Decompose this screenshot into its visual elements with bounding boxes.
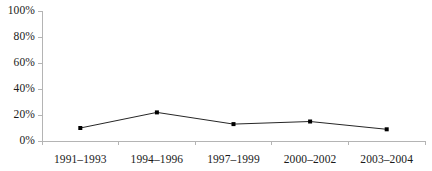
data-point-marker — [385, 127, 389, 131]
series-markers — [78, 110, 388, 131]
y-axis-tick-label: 80% — [14, 31, 35, 43]
data-point-marker — [232, 122, 236, 126]
x-axis-ticks — [42, 141, 425, 145]
series-line — [80, 112, 386, 129]
data-point-marker — [155, 110, 159, 114]
x-axis — [42, 141, 425, 145]
x-axis-tick-label: 2003–2004 — [348, 154, 425, 166]
chart-plot-area — [0, 0, 432, 171]
x-axis-tick-label: 2000–2002 — [272, 154, 349, 166]
y-axis-tick-label: 100% — [8, 5, 35, 17]
y-axis-tick-label: 60% — [14, 57, 35, 69]
y-axis-ticks — [38, 11, 42, 141]
data-point-marker — [78, 126, 82, 130]
y-axis-tick-label: 20% — [14, 109, 35, 121]
y-axis-tick-label: 40% — [14, 83, 35, 95]
y-axis — [38, 11, 42, 141]
x-axis-tick-label: 1997–1999 — [195, 154, 272, 166]
data-point-marker — [308, 120, 312, 124]
line-chart: 0%20%40%60%80%100% 1991–19931994–1996199… — [0, 0, 432, 171]
x-axis-tick-label: 1994–1996 — [119, 154, 196, 166]
data-series — [78, 110, 388, 131]
y-axis-tick-label: 0% — [19, 135, 35, 147]
x-axis-tick-label: 1991–1993 — [42, 154, 119, 166]
